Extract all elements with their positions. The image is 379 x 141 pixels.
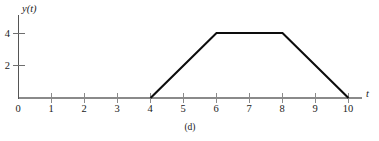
- x-tick-label-5: 5: [180, 103, 185, 114]
- x-tick-label-7: 7: [246, 103, 251, 114]
- x-tick-label-0: 0: [15, 103, 20, 114]
- x-tick-label-10: 10: [343, 103, 354, 114]
- y-axis-label: y(t): [21, 3, 37, 15]
- x-tick-label-1: 1: [48, 103, 53, 114]
- x-tick-labels: 0 1 2 3 4 5 6 7 8 9 10: [15, 103, 353, 114]
- y-tick-label-2: 2: [5, 60, 10, 71]
- x-tick-label-4: 4: [147, 103, 153, 114]
- x-tick-label-9: 9: [312, 103, 317, 114]
- y-tick-label-4: 4: [5, 28, 11, 39]
- figure-container: 0 1 2 3 4 5 6 7 8 9 10 2 4 y(t) t (d): [0, 0, 379, 141]
- trapezoid-waveform-plot: 0 1 2 3 4 5 6 7 8 9 10 2 4 y(t) t (d): [0, 0, 379, 141]
- x-tick-label-6: 6: [213, 103, 218, 114]
- x-axis-label: t: [366, 88, 370, 99]
- signal-waveform-curve: [151, 33, 349, 98]
- x-tick-label-8: 8: [279, 103, 284, 114]
- x-tick-label-3: 3: [114, 103, 119, 114]
- figure-caption: (d): [184, 122, 195, 133]
- y-tick-labels: 2 4: [5, 28, 11, 71]
- x-tick-label-2: 2: [81, 103, 86, 114]
